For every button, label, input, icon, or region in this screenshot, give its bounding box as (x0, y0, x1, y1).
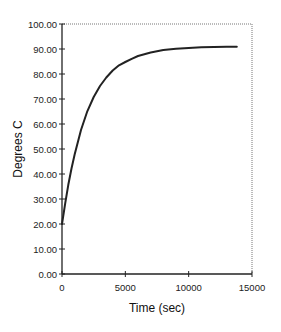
y-tick-label: 100.00 (28, 19, 57, 30)
y-tick-label: 50.00 (33, 144, 57, 155)
x-tick-label: 10000 (175, 282, 201, 293)
y-tick-label: 10.00 (33, 244, 57, 255)
x-axis-title: Time (sec) (129, 301, 185, 315)
x-tick-label: 5000 (115, 282, 136, 293)
x-tick-label: 0 (59, 282, 64, 293)
chart: 0.0010.0020.0030.0040.0050.0060.0070.008… (0, 0, 281, 332)
plot-frame (62, 24, 252, 274)
y-tick-label: 0.00 (39, 269, 58, 280)
temperature-line (62, 47, 237, 224)
y-tick-label: 70.00 (33, 94, 57, 105)
y-axis-title: Degrees C (11, 120, 25, 178)
x-tick-label: 15000 (239, 282, 265, 293)
y-tick-label: 30.00 (33, 194, 57, 205)
y-axis-ticks: 0.0010.0020.0030.0040.0050.0060.0070.008… (28, 19, 65, 280)
y-tick-label: 40.00 (33, 169, 57, 180)
y-tick-label: 20.00 (33, 219, 57, 230)
y-tick-label: 90.00 (33, 44, 57, 55)
y-tick-label: 80.00 (33, 69, 57, 80)
y-tick-label: 60.00 (33, 119, 57, 130)
